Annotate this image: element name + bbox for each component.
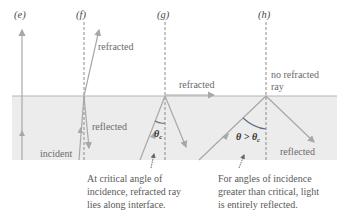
f-reflected-label: reflected bbox=[92, 121, 127, 132]
panel-label-f: (f) bbox=[76, 9, 86, 21]
panel-label-h: (h) bbox=[258, 9, 271, 21]
f-incident-label: incident bbox=[40, 148, 72, 159]
f-refracted-label: refracted bbox=[98, 41, 134, 52]
panel-label-g: (g) bbox=[157, 9, 170, 21]
g-caption: At critical angle of incidence, refracte… bbox=[87, 173, 184, 210]
g-refracted-label: refracted bbox=[179, 79, 215, 90]
h-caption: For angles of incidence greater than cri… bbox=[218, 173, 322, 210]
panel-label-e: (e) bbox=[14, 9, 26, 21]
h-no-refracted-label: no refracted ray bbox=[271, 69, 322, 92]
f-refracted-ray bbox=[84, 30, 99, 96]
total-internal-reflection-diagram: (e) (f) (g) (h) refracted reflected inci… bbox=[0, 0, 337, 221]
h-reflected-label: reflected bbox=[280, 146, 315, 157]
